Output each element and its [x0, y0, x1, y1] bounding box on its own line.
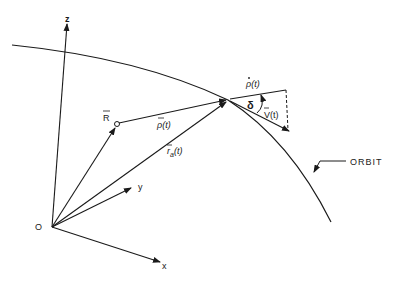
orbit-leader — [314, 161, 346, 172]
z-axis-label: z — [65, 14, 70, 24]
rho-label: ρ(t) — [156, 120, 171, 130]
x-axis — [52, 227, 160, 262]
v-label: V(t) — [264, 110, 279, 120]
delta-label: δ — [247, 99, 254, 111]
z-axis — [52, 24, 67, 227]
orbit-vector-diagram: z y x O R ρ(t) ra(t) ρ(t) δ V(t) ORBIT — [0, 0, 394, 293]
x-axis-label: x — [162, 261, 167, 271]
R-point — [115, 122, 120, 127]
delta-arc — [257, 95, 262, 113]
y-axis-label: y — [138, 182, 143, 192]
rho-dot-line — [230, 90, 286, 99]
rho-dot-label: ρ(t) — [245, 79, 260, 89]
rho-vector — [119, 100, 226, 123]
origin-label: O — [35, 222, 42, 232]
r-a-vector — [52, 102, 226, 227]
orbit-label: ORBIT — [350, 157, 383, 167]
v-vector — [230, 101, 289, 131]
dashed-component — [286, 90, 288, 130]
R-label: R — [103, 113, 110, 123]
r-a-label: ra(t) — [167, 146, 182, 158]
rho-dot-mark — [248, 77, 250, 79]
orbit-curve — [12, 45, 331, 222]
R-vector — [52, 128, 115, 227]
